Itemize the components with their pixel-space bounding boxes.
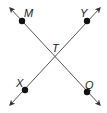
label-y: Y xyxy=(80,7,88,19)
label-m: M xyxy=(24,7,34,19)
label-q: Q xyxy=(85,79,94,91)
label-x: X xyxy=(15,77,24,89)
intersecting-lines-diagram: M Y X Q T xyxy=(0,0,107,113)
